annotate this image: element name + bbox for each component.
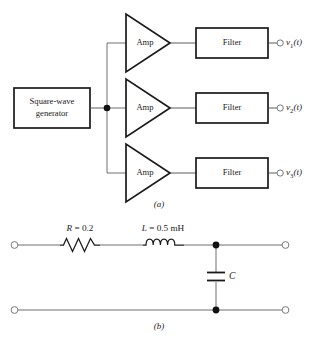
output-label-3-arg: (t): [293, 167, 302, 177]
channel-2: Amp Filter v2(t): [126, 79, 302, 137]
top-node-dot: [213, 242, 220, 249]
output-label-1: v1(t): [286, 37, 302, 48]
panel-a-caption: (a): [154, 199, 165, 209]
square-wave-generator-block: Square-wave generator: [14, 88, 90, 128]
amp-label-2: Amp: [136, 102, 153, 112]
terminal-top-right: [282, 242, 289, 249]
figure-root: Square-wave generator Amp Filter v1: [0, 0, 318, 341]
capacitor-label: C: [229, 270, 236, 281]
inductor-label-value: 0.5 mH: [157, 223, 185, 233]
amp-label-1: Amp: [136, 37, 153, 47]
square-wave-generator-label-line1: Square-wave: [30, 96, 75, 106]
inductor-symbol: [143, 239, 184, 245]
inductor-label-eq: =: [147, 223, 157, 233]
filter-label-2: Filter: [223, 102, 242, 112]
output-label-2-arg: (t): [293, 102, 302, 112]
filter-label-1: Filter: [223, 37, 242, 47]
figure-svg: Square-wave generator Amp Filter v1: [0, 0, 318, 341]
filter-label-3: Filter: [223, 167, 242, 177]
terminal-top-left: [11, 242, 18, 249]
terminal-bottom-left: [11, 307, 18, 314]
resistor-symbol: [60, 239, 100, 252]
resistor-label: R = 0.2: [66, 223, 94, 233]
amp-label-3: Amp: [136, 167, 153, 177]
output-terminal-3: [277, 170, 283, 176]
panel-b-caption: (b): [154, 321, 165, 331]
panel-b: R = 0.2 L = 0.5 mH C (b): [11, 223, 289, 331]
output-label-2: v2(t): [286, 102, 302, 113]
resistor-label-eq: =: [72, 223, 82, 233]
panel-a: Square-wave generator Amp Filter v1: [14, 14, 302, 209]
output-label-1-arg: (t): [293, 37, 302, 47]
output-label-3: v3(t): [286, 167, 302, 178]
output-terminal-2: [277, 105, 283, 111]
channel-1: Amp Filter v1(t): [126, 14, 302, 72]
terminal-bottom-right: [282, 307, 289, 314]
bottom-node-dot: [213, 307, 220, 314]
resistor-label-value: 0.2: [82, 223, 94, 233]
square-wave-generator-label-line2: generator: [36, 108, 69, 118]
junction-node-dot: [104, 105, 111, 112]
inductor-label: L = 0.5 mH: [141, 223, 185, 233]
channel-3: Amp Filter v3(t): [126, 144, 302, 202]
output-terminal-1: [277, 40, 283, 46]
